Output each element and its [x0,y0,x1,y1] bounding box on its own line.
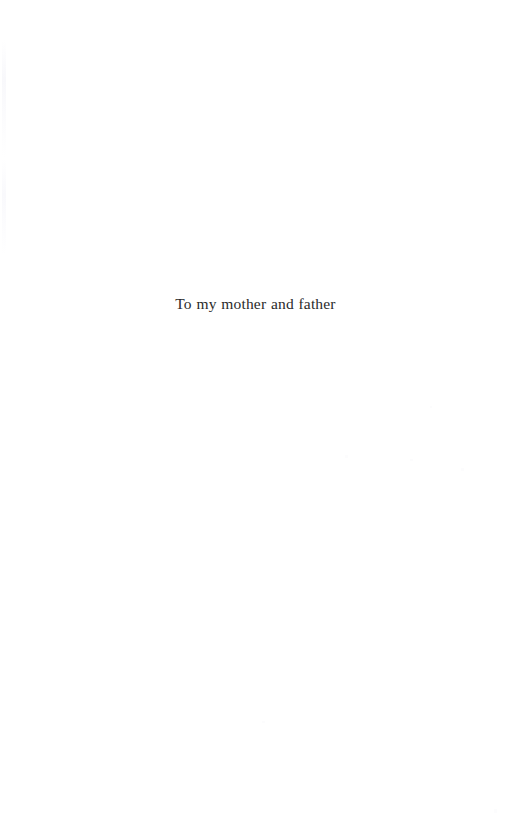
scan-speck [410,459,413,461]
scan-gutter-artifact [2,40,6,255]
scan-speck [430,406,432,408]
scan-speck [345,455,348,458]
dedication-block: To my mother and father [0,293,511,315]
scan-speck [494,809,497,813]
scan-speck [262,721,265,723]
dedication-page: To my mother and father [0,0,511,838]
scan-speck [461,468,464,471]
dedication-text: To my mother and father [175,293,335,315]
